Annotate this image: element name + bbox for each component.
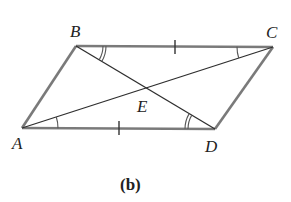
- vertex-label-a: A: [11, 134, 23, 153]
- angle-arc-a: [56, 117, 58, 128]
- figure-caption: (b): [120, 175, 141, 194]
- parallelogram-figure: B C A D E (b): [0, 0, 291, 202]
- vertex-label-d: D: [204, 137, 218, 156]
- side-ab: [22, 46, 76, 128]
- diagonal-ac: [22, 47, 273, 128]
- vertex-label-b: B: [70, 22, 81, 41]
- angle-arc-d-inner: [188, 115, 192, 129]
- diagonal-bd: [76, 46, 215, 129]
- angle-arc-c: [237, 47, 239, 58]
- angle-arc-b-inner: [99, 46, 103, 60]
- vertex-label-e: E: [136, 97, 148, 116]
- vertex-label-c: C: [266, 23, 278, 42]
- diagram-canvas: B C A D E (b): [0, 0, 291, 202]
- side-cd: [215, 47, 273, 129]
